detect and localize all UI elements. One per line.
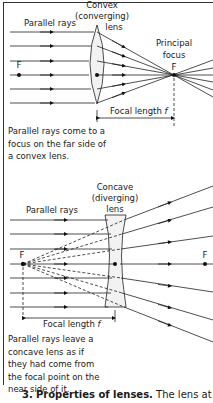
concave-caption: Parallel rays leave a concave lens as if… [8,333,104,396]
concave-title-1: Concave [97,182,134,192]
convex-parallel-rays-label: Parallel rays [24,18,76,28]
principal-focus-label-1: Principal [156,38,192,48]
section-heading-text: 3. Properties of lenses. The lens at the [22,389,213,400]
convex-title-3: lens [105,22,123,32]
concave-focus-left-label: F [20,250,25,260]
section-number: 3. [22,389,33,400]
convex-caption: Parallel rays come to a focus on the far… [8,125,108,163]
concave-diagram: Concave (diverging) lens Parallel rays F… [10,182,213,342]
convex-focal-length-label: Focal length f [110,106,170,116]
concave-title-2: (diverging) [92,193,139,203]
concave-focus-right-label: F [203,250,208,260]
section-body: The lens at the [153,389,213,400]
convex-left-focus-point [17,73,21,77]
convex-lens [90,25,104,104]
concave-focal-length-label: Focal length f [43,319,103,329]
convex-lens-center [95,73,99,77]
concave-parallel-rays-label: Parallel rays [26,205,78,215]
concave-lens-center [113,262,117,266]
convex-focus-right-label: F [172,62,177,72]
convex-title-2: (converging) [75,11,129,21]
convex-title-1: Convex [86,0,118,10]
convex-diagram: Convex (converging) lens Parallel rays P… [10,0,213,128]
convex-principal-focus-point [172,73,176,77]
concave-title-3: lens [106,204,124,214]
concave-right-focus-point [203,262,207,266]
section-heading: Properties of lenses. [36,389,153,400]
concave-virtual-focus-point [21,262,25,266]
convex-focus-left-label: F [17,60,22,70]
principal-focus-label-2: focus [163,50,186,60]
